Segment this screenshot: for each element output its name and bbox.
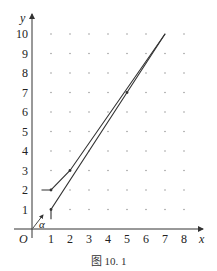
- grid-dot: [126, 150, 127, 151]
- grid-dot: [183, 72, 184, 73]
- grid-dot: [164, 209, 165, 210]
- grid-dot: [88, 92, 89, 93]
- grid-dot: [69, 33, 70, 34]
- angle-annotation: α: [33, 215, 45, 230]
- y-tick-label: 9: [22, 47, 28, 61]
- grid-dot: [69, 111, 70, 112]
- line-chart: 1234567812345678910 α O x y: [0, 0, 217, 250]
- grid-dot: [126, 111, 127, 112]
- grid-dot: [126, 53, 127, 54]
- grid-dot: [69, 72, 70, 73]
- grid-dot: [126, 170, 127, 171]
- grid-dot: [107, 111, 108, 112]
- x-tick-label: 8: [181, 232, 187, 246]
- grid-dot: [183, 131, 184, 132]
- grid-dot: [69, 189, 70, 190]
- grid-dot: [164, 189, 165, 190]
- grid-dot: [126, 189, 127, 190]
- x-tick-label: 1: [48, 232, 54, 246]
- grid-dot: [164, 150, 165, 151]
- y-axis-label: y: [19, 11, 26, 25]
- grid-dot: [183, 170, 184, 171]
- grid-dot: [183, 92, 184, 93]
- grid-dot: [69, 150, 70, 151]
- axes: [14, 14, 203, 238]
- grid-dot: [69, 92, 70, 93]
- series: [42, 34, 166, 219]
- grid-dot: [88, 72, 89, 73]
- grid-dot: [50, 170, 51, 171]
- grid-dot: [88, 53, 89, 54]
- grid-dot: [145, 92, 146, 93]
- grid-dot: [183, 33, 184, 34]
- grid-dot: [69, 53, 70, 54]
- grid-dot: [107, 72, 108, 73]
- y-tick-label: 3: [22, 164, 28, 178]
- x-tick-label: 7: [162, 232, 168, 246]
- path-lower-line: [51, 34, 165, 219]
- grid-dot: [107, 92, 108, 93]
- figure-caption: 图 10. 1: [0, 252, 217, 268]
- grid-dot: [164, 170, 165, 171]
- grid-dot: [126, 72, 127, 73]
- grid-dot: [183, 189, 184, 190]
- grid-dot: [107, 209, 108, 210]
- y-tick-label: 8: [22, 66, 28, 80]
- grid-dot: [183, 150, 184, 151]
- grid-dot: [145, 111, 146, 112]
- grid-dot: [164, 72, 165, 73]
- grid-dot: [50, 72, 51, 73]
- grid-dot: [145, 72, 146, 73]
- grid-dot: [88, 33, 89, 34]
- x-tick-label: 5: [124, 232, 130, 246]
- grid-dot: [164, 111, 165, 112]
- grid-dot: [145, 33, 146, 34]
- marked-point: [69, 169, 72, 172]
- y-tick-label: 2: [22, 183, 28, 197]
- figure: 1234567812345678910 α O x y 图 10. 1: [0, 0, 217, 271]
- grid-dot: [183, 111, 184, 112]
- grid-dot: [164, 131, 165, 132]
- y-tick-label: 5: [22, 125, 28, 139]
- grid-dot: [145, 131, 146, 132]
- x-tick-label: 2: [67, 232, 73, 246]
- y-tick-label: 10: [16, 27, 28, 41]
- grid-dot: [88, 111, 89, 112]
- grid-dot: [88, 189, 89, 190]
- grid-dot: [145, 53, 146, 54]
- grid-dot: [50, 131, 51, 132]
- y-tick-label: 6: [22, 105, 28, 119]
- y-tick-label: 7: [22, 86, 28, 100]
- grid-dot: [50, 33, 51, 34]
- grid-dot: [145, 189, 146, 190]
- x-tick-label: 3: [86, 232, 92, 246]
- grid-dot: [164, 53, 165, 54]
- grid-dot: [107, 150, 108, 151]
- x-axis-label: x: [198, 232, 205, 246]
- grid-dot: [88, 209, 89, 210]
- x-tick-label: 6: [143, 232, 149, 246]
- y-tick-label: 4: [22, 144, 28, 158]
- x-tick-label: 4: [105, 232, 111, 246]
- marked-point: [50, 189, 53, 192]
- marked-point: [50, 208, 53, 211]
- grid-dot: [107, 53, 108, 54]
- grid-dot: [145, 170, 146, 171]
- grid-dot: [50, 150, 51, 151]
- grid-dot: [50, 111, 51, 112]
- origin-label: O: [19, 232, 28, 246]
- grid-dot: [107, 170, 108, 171]
- grid-dot: [164, 92, 165, 93]
- grid-dot: [183, 53, 184, 54]
- grid-dot: [107, 33, 108, 34]
- grid-dot: [88, 131, 89, 132]
- angle-label: α: [39, 218, 45, 230]
- grid-dots: [50, 33, 184, 210]
- grid-dot: [50, 92, 51, 93]
- tick-labels: 1234567812345678910: [16, 27, 187, 246]
- grid-dot: [69, 209, 70, 210]
- grid-dot: [126, 209, 127, 210]
- grid-dot: [126, 131, 127, 132]
- y-tick-label: 1: [22, 203, 28, 217]
- grid-dot: [145, 150, 146, 151]
